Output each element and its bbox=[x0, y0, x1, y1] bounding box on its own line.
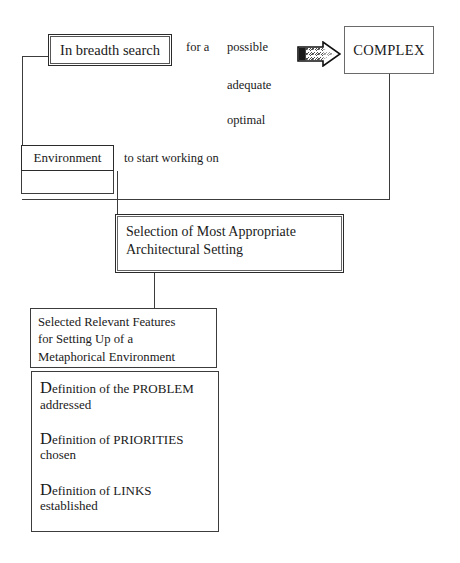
connector-features-drop bbox=[154, 273, 155, 308]
connector-breadth-left-stub bbox=[22, 56, 49, 57]
diagram-canvas: In breadth search for a possible adequat… bbox=[0, 0, 460, 563]
definition-dropcap: D bbox=[40, 480, 52, 499]
node-in-breadth-search-label: In breadth search bbox=[49, 42, 171, 59]
node-in-breadth-search[interactable]: In breadth search bbox=[48, 34, 172, 66]
list-item: Definition of LINKS established bbox=[40, 482, 212, 515]
node-features-line-1: Selected Relevant Features bbox=[38, 314, 175, 331]
definition-dropcap: D bbox=[40, 378, 52, 397]
definition-heading: Definition of the PROBLEM bbox=[40, 380, 212, 397]
list-item: Definition of PRIORITIES chosen bbox=[40, 431, 212, 464]
node-features-line-2: for Setting Up of a bbox=[38, 331, 175, 348]
block-arrow-right-icon bbox=[297, 41, 341, 67]
node-selection-line-1: Selection of Most Appropriate bbox=[126, 223, 296, 241]
definition-heading: Definition of PRIORITIES bbox=[40, 431, 212, 448]
connector-junction-bar bbox=[22, 199, 390, 200]
definition-subtext: established bbox=[40, 498, 212, 514]
node-selection-label: Selection of Most Appropriate Architectu… bbox=[126, 223, 296, 260]
node-features-line-3: Metaphorical Environment bbox=[38, 349, 175, 366]
node-environment-label: Environment bbox=[22, 150, 113, 166]
phrase-for-a: for a bbox=[186, 40, 209, 55]
definition-heading-rest: efinition of the PROBLEM bbox=[52, 381, 194, 396]
definition-subtext: chosen bbox=[40, 447, 212, 463]
node-selected-relevant-features[interactable]: Selected Relevant Features for Setting U… bbox=[30, 308, 217, 368]
node-complex[interactable]: COMPLEX bbox=[344, 26, 434, 74]
node-complex-label: COMPLEX bbox=[345, 42, 433, 59]
connector-selection-drop bbox=[117, 171, 118, 215]
phrase-option-adequate: adequate bbox=[227, 78, 271, 93]
node-environment[interactable]: Environment bbox=[21, 145, 114, 171]
connector-complex-vertical bbox=[389, 74, 390, 199]
phrase-option-possible: possible bbox=[227, 40, 268, 55]
list-item: Definition of the PROBLEM addressed bbox=[40, 380, 212, 413]
node-selection-of-architectural-setting[interactable]: Selection of Most Appropriate Architectu… bbox=[115, 214, 344, 273]
node-selection-line-2: Architectural Setting bbox=[126, 241, 296, 259]
node-features-label: Selected Relevant Features for Setting U… bbox=[38, 314, 175, 366]
definition-dropcap: D bbox=[40, 429, 52, 448]
definitions-list: Definition of the PROBLEM addressed Defi… bbox=[40, 380, 212, 515]
node-definitions-list[interactable]: Definition of the PROBLEM addressed Defi… bbox=[31, 371, 219, 532]
definition-heading-rest: efinition of LINKS bbox=[52, 483, 152, 498]
phrase-option-optimal: optimal bbox=[227, 113, 265, 128]
definition-subtext: addressed bbox=[40, 397, 212, 413]
definition-heading-rest: efinition of PRIORITIES bbox=[52, 432, 183, 447]
definition-heading: Definition of LINKS bbox=[40, 482, 212, 499]
phrase-to-start-working-on: to start working on bbox=[124, 151, 219, 166]
